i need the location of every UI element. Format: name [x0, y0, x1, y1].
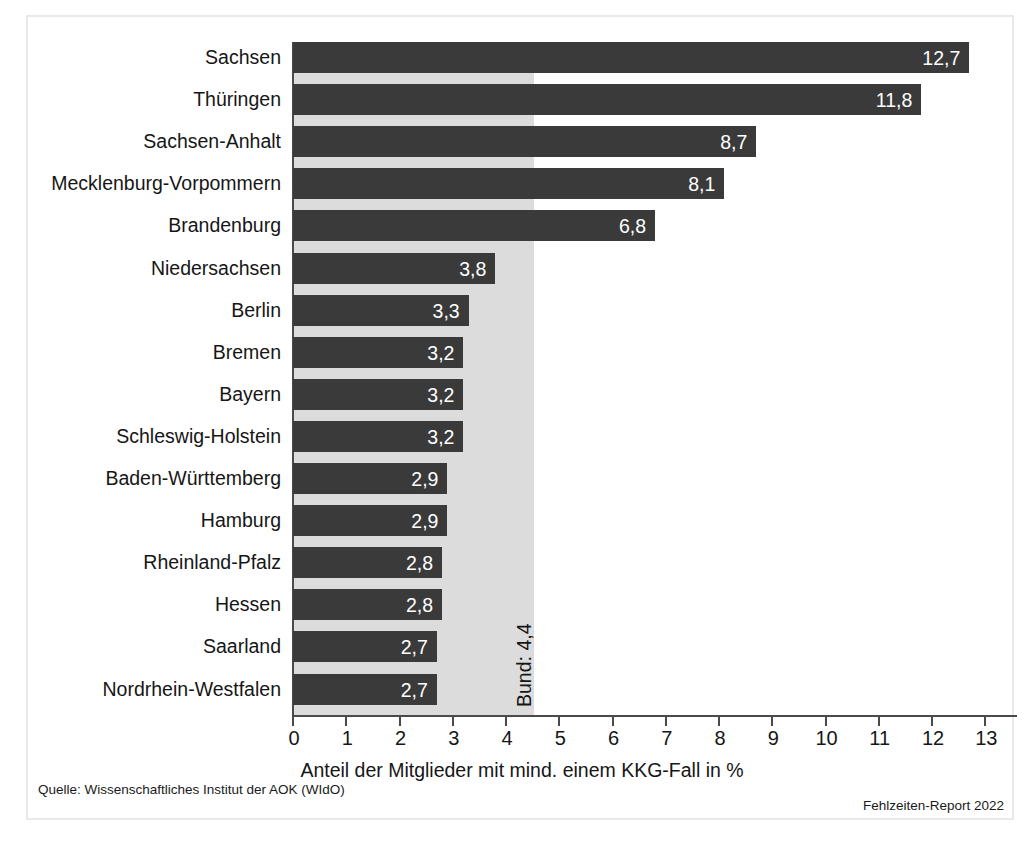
category-label: Thüringen — [193, 84, 281, 115]
bar-row: Berlin3,3 — [28, 295, 1016, 326]
bar-value-label: 8,7 — [720, 126, 747, 157]
bar-value-label: 12,7 — [922, 42, 960, 73]
bar: 2,7 — [293, 631, 437, 662]
category-label: Bayern — [219, 379, 281, 410]
x-axis-tick-label: 2 — [381, 727, 421, 750]
x-axis-tick — [931, 717, 933, 726]
bar-value-label: 3,2 — [427, 379, 454, 410]
x-axis-tick — [505, 717, 507, 726]
x-axis-tick — [612, 717, 614, 726]
bar-row: Hessen2,8 — [28, 589, 1016, 620]
x-axis-tick — [399, 717, 401, 726]
bar-row: Sachsen-Anhalt8,7 — [28, 126, 1016, 157]
x-axis-tick — [984, 717, 986, 726]
category-label: Nordrhein-Westfalen — [103, 674, 281, 705]
x-axis-title: Anteil der Mitglieder mit mind. einem KK… — [28, 759, 1016, 782]
bar: 2,7 — [293, 674, 437, 705]
x-axis-tick-label: 5 — [540, 727, 580, 750]
x-axis-tick-label: 0 — [274, 727, 314, 750]
bar-value-label: 2,7 — [401, 631, 428, 662]
x-axis-tick — [665, 717, 667, 726]
bar: 3,2 — [293, 337, 463, 368]
bar: 3,2 — [293, 379, 463, 410]
figure-footer: Quelle: Wissenschaftliches Institut der … — [28, 782, 1016, 812]
x-axis-tick — [292, 717, 294, 726]
x-axis-tick — [878, 717, 880, 726]
bar-row: Brandenburg6,8 — [28, 210, 1016, 241]
x-axis-tick-label: 9 — [753, 727, 793, 750]
category-label: Hamburg — [201, 505, 281, 536]
figure-frame: Sachsen12,7Thüringen11,8Sachsen-Anhalt8,… — [26, 15, 1014, 820]
x-axis-tick — [345, 717, 347, 726]
x-axis-tick — [771, 717, 773, 726]
x-axis-tick — [718, 717, 720, 726]
category-label: Berlin — [231, 295, 281, 326]
x-axis-tick-label: 10 — [807, 727, 847, 750]
bar-row: Mecklenburg-Vorpommern8,1 — [28, 168, 1016, 199]
category-label: Brandenburg — [168, 210, 281, 241]
bar: 2,8 — [293, 547, 442, 578]
bar: 3,8 — [293, 253, 495, 284]
bar-value-label: 3,2 — [427, 421, 454, 452]
bar-row: Rheinland-Pfalz2,8 — [28, 547, 1016, 578]
bar-value-label: 3,8 — [459, 253, 486, 284]
bar-row: Niedersachsen3,8 — [28, 253, 1016, 284]
category-label: Mecklenburg-Vorpommern — [51, 168, 281, 199]
bar-row: Baden-Württemberg2,9 — [28, 463, 1016, 494]
bar-value-label: 3,2 — [427, 337, 454, 368]
bar-row: Hamburg2,9 — [28, 505, 1016, 536]
bar-value-label: 2,9 — [411, 505, 438, 536]
category-label: Bremen — [213, 337, 281, 368]
bar-row: Thüringen11,8 — [28, 84, 1016, 115]
bar: 8,7 — [293, 126, 756, 157]
bar-value-label: 8,1 — [688, 168, 715, 199]
x-axis-tick-label: 8 — [700, 727, 740, 750]
x-axis-tick — [558, 717, 560, 726]
bar: 12,7 — [293, 42, 969, 73]
category-label: Niedersachsen — [151, 253, 281, 284]
plot-area: Sachsen12,7Thüringen11,8Sachsen-Anhalt8,… — [28, 17, 1016, 717]
category-label: Rheinland-Pfalz — [143, 547, 281, 578]
x-axis-tick-label: 4 — [487, 727, 527, 750]
bar-value-label: 2,8 — [406, 547, 433, 578]
bar-value-label: 6,8 — [619, 210, 646, 241]
x-axis-line — [293, 715, 1017, 717]
bar-row: Sachsen12,7 — [28, 42, 1016, 73]
bar-value-label: 2,7 — [401, 674, 428, 705]
bar: 6,8 — [293, 210, 655, 241]
category-label: Sachsen — [205, 42, 281, 73]
x-axis-tick-label: 1 — [327, 727, 367, 750]
source-note: Quelle: Wissenschaftliches Institut der … — [38, 782, 345, 797]
category-label: Schleswig-Holstein — [116, 421, 281, 452]
category-label: Sachsen-Anhalt — [143, 126, 281, 157]
bar-value-label: 3,3 — [433, 295, 460, 326]
bar-value-label: 2,8 — [406, 589, 433, 620]
category-label: Hessen — [215, 589, 281, 620]
bar-row: Bremen3,2 — [28, 337, 1016, 368]
x-axis-tick-label: 13 — [966, 727, 1006, 750]
x-axis-tick-label: 11 — [860, 727, 900, 750]
x-axis-tick — [452, 717, 454, 726]
bar: 3,2 — [293, 421, 463, 452]
bar-row: Schleswig-Holstein3,2 — [28, 421, 1016, 452]
bar: 2,9 — [293, 505, 447, 536]
x-axis-tick-label: 12 — [913, 727, 953, 750]
category-label: Saarland — [203, 631, 281, 662]
bar: 2,8 — [293, 589, 442, 620]
bar-row: Bayern3,2 — [28, 379, 1016, 410]
bar-value-label: 11,8 — [876, 84, 913, 115]
x-axis-tick-label: 7 — [647, 727, 687, 750]
bar: 8,1 — [293, 168, 724, 199]
bund-reference-label: Bund: 4,4 — [513, 624, 536, 709]
category-label: Baden-Württemberg — [105, 463, 281, 494]
bar: 2,9 — [293, 463, 447, 494]
bar: 3,3 — [293, 295, 469, 326]
bar-value-label: 2,9 — [411, 463, 438, 494]
bar: 11,8 — [293, 84, 921, 115]
x-axis-tick-label: 3 — [434, 727, 474, 750]
x-axis-tick-label: 6 — [594, 727, 634, 750]
x-axis-tick — [825, 717, 827, 726]
report-note: Fehlzeiten-Report 2022 — [863, 798, 1004, 813]
